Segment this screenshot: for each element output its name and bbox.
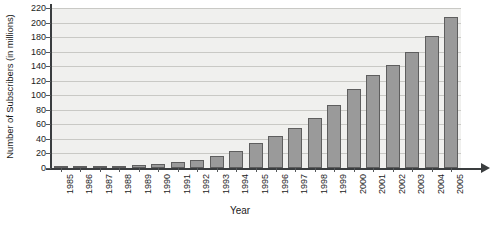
x-tick-label: 1994 <box>240 174 250 194</box>
x-tick-mark <box>100 168 101 172</box>
x-tick-mark <box>139 168 140 172</box>
bar <box>444 17 458 168</box>
x-tick-mark <box>178 168 179 172</box>
bar <box>425 36 439 168</box>
x-tick-label: 1992 <box>201 174 211 194</box>
bar <box>347 89 361 168</box>
x-tick-mark <box>61 168 62 172</box>
x-tick-label: 1995 <box>260 174 270 194</box>
x-axis-title: Year <box>0 205 480 216</box>
bar <box>229 151 243 168</box>
x-tick-label: 1989 <box>143 174 153 194</box>
bar <box>288 128 302 168</box>
x-tick-label: 1997 <box>299 174 309 194</box>
y-axis-title-label: Number of Subscribers (in millions) <box>4 14 15 158</box>
x-tick-label: 1986 <box>84 174 94 194</box>
x-tick-label: 1999 <box>338 174 348 194</box>
y-tick-mark <box>46 139 51 140</box>
x-tick-mark <box>432 168 433 172</box>
x-tick-mark <box>80 168 81 172</box>
bar <box>268 136 282 168</box>
x-tick-mark <box>334 168 335 172</box>
y-axis-tick-labels: 020406080100120140160180200220 <box>18 0 48 172</box>
x-tick-mark <box>412 168 413 172</box>
x-axis-tick-labels: 1985198619871988198919901991199219931994… <box>51 168 461 226</box>
x-tick-label: 1990 <box>162 174 172 194</box>
y-tick-mark <box>46 8 51 9</box>
y-tick-label: 20 <box>36 148 46 158</box>
x-tick-mark <box>197 168 198 172</box>
y-tick-mark <box>46 168 51 169</box>
x-tick-mark <box>315 168 316 172</box>
y-tick-label: 40 <box>36 134 46 144</box>
x-tick-label: 1988 <box>123 174 133 194</box>
bar <box>210 156 224 168</box>
x-tick-mark <box>276 168 277 172</box>
y-tick-mark <box>46 37 51 38</box>
y-tick-label: 60 <box>36 119 46 129</box>
x-axis-arrow-icon <box>481 163 490 173</box>
x-tick-mark <box>451 168 452 172</box>
y-tick-mark <box>46 110 51 111</box>
x-tick-label: 2001 <box>377 174 387 194</box>
x-tick-label: 2003 <box>416 174 426 194</box>
x-tick-mark <box>158 168 159 172</box>
x-tick-label: 2000 <box>358 174 368 194</box>
bar <box>190 160 204 168</box>
bars-group <box>51 8 461 168</box>
bar-chart: Number of Subscribers (in millions) 0204… <box>0 0 502 226</box>
y-tick-label: 160 <box>31 47 46 57</box>
bar <box>405 52 419 168</box>
x-tick-label: 2005 <box>455 174 465 194</box>
y-tick-mark <box>46 52 51 53</box>
x-tick-mark <box>217 168 218 172</box>
y-axis-line <box>50 4 52 168</box>
bar <box>386 65 400 168</box>
x-tick-mark <box>295 168 296 172</box>
x-tick-label: 1993 <box>221 174 231 194</box>
y-tick-label: 100 <box>31 90 46 100</box>
x-tick-mark <box>354 168 355 172</box>
x-tick-mark <box>236 168 237 172</box>
x-tick-label: 2002 <box>397 174 407 194</box>
bar <box>249 143 263 168</box>
bar <box>366 75 380 168</box>
bar <box>308 118 322 168</box>
y-tick-mark <box>46 66 51 67</box>
y-tick-label: 200 <box>31 18 46 28</box>
bar <box>327 105 341 168</box>
y-tick-mark <box>46 95 51 96</box>
y-tick-label: 220 <box>31 3 46 13</box>
y-tick-label: 120 <box>31 76 46 86</box>
x-tick-mark <box>256 168 257 172</box>
y-tick-label: 80 <box>36 105 46 115</box>
x-tick-label: 1996 <box>280 174 290 194</box>
y-tick-label: 180 <box>31 32 46 42</box>
x-tick-label: 1985 <box>65 174 75 194</box>
x-tick-label: 1998 <box>319 174 329 194</box>
y-tick-mark <box>46 23 51 24</box>
x-tick-label: 2004 <box>436 174 446 194</box>
y-tick-mark <box>46 153 51 154</box>
y-tick-mark <box>46 81 51 82</box>
y-tick-mark <box>46 124 51 125</box>
x-tick-label: 1987 <box>104 174 114 194</box>
x-tick-mark <box>393 168 394 172</box>
y-axis-title: Number of Subscribers (in millions) <box>0 0 18 172</box>
x-tick-label: 1991 <box>182 174 192 194</box>
x-tick-mark <box>373 168 374 172</box>
plot-area <box>51 8 461 168</box>
y-tick-label: 140 <box>31 61 46 71</box>
x-tick-mark <box>119 168 120 172</box>
